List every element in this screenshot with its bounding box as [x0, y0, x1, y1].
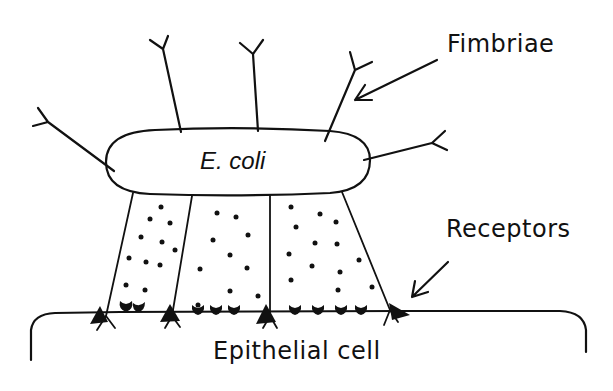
receptors-label: Receptors	[446, 215, 571, 243]
fimbriae-arrow	[355, 60, 437, 100]
epithelial-cell-label: Epithelial cell	[213, 337, 381, 365]
secretion-dots	[124, 205, 375, 308]
receptors-arrow	[412, 262, 448, 297]
ecoli-label: E. coli	[200, 147, 265, 175]
ecoli-adhesion-drawing	[0, 0, 613, 391]
fimbriae-label: Fimbriae	[447, 30, 554, 58]
diagram-canvas: E. coli Fimbriae Receptors Epithelial ce…	[0, 0, 613, 391]
